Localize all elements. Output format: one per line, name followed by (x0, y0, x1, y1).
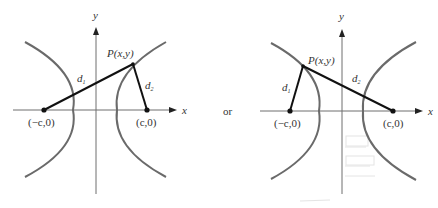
point-p (301, 64, 305, 68)
y-axis-arrow-icon (93, 27, 99, 35)
panel-right: y x P(x,y) (−c,0) (c,0) d1 d2 (260, 10, 433, 201)
distance-d1-segment (290, 66, 303, 111)
focus-left-label: (−c,0) (28, 116, 55, 129)
hyperbola-figure: y x P(x,y) (−c,0) (c,0) d1 d2 or (0, 0, 438, 208)
focus-left-point (287, 108, 292, 113)
focus-right-point (390, 108, 395, 113)
focus-right-label: (c,0) (136, 116, 157, 129)
x-axis-label: x (427, 105, 433, 117)
point-p (131, 62, 135, 66)
point-p-label: P(x,y) (307, 54, 335, 67)
y-axis-arrow-icon (339, 29, 345, 37)
distance-d2-label: d2 (145, 79, 154, 92)
distance-d2-label: d2 (352, 72, 361, 85)
panel-left: y x P(x,y) (−c,0) (c,0) d1 d2 (13, 9, 187, 194)
point-p-label: P(x,y) (106, 47, 134, 60)
focus-right-label: (c,0) (383, 117, 404, 130)
distance-d1-label: d1 (77, 72, 86, 85)
focus-left-label: (−c,0) (274, 117, 301, 130)
y-axis-label: y (338, 10, 344, 22)
connector-or-label: or (223, 105, 233, 117)
focus-right-point (144, 107, 149, 112)
distance-d1-label: d1 (282, 81, 291, 94)
y-axis-label: y (92, 9, 98, 21)
x-axis-label: x (181, 104, 187, 116)
focus-left-point (41, 107, 46, 112)
x-axis-arrow-icon (415, 108, 423, 114)
x-axis-arrow-icon (169, 107, 177, 113)
